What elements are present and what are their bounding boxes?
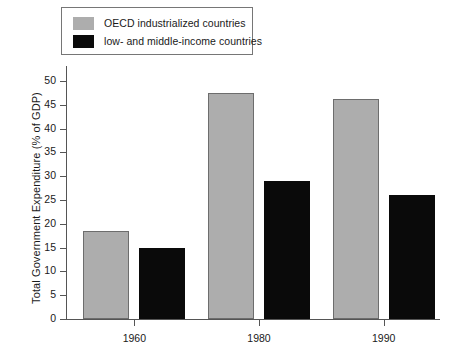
y-axis-line [66,66,67,320]
bar [264,181,310,319]
y-axis-tick: 5 [60,295,66,296]
y-axis-tick-label: 30 [44,169,56,182]
y-axis-tick-label: 45 [44,98,56,111]
y-axis-tick: 0 [60,319,66,320]
bar [139,248,185,319]
y-axis-title: Total Government Expenditure (% of GDP) [30,78,42,318]
y-axis-tick: 20 [60,224,66,225]
y-axis-tick-label: 25 [44,193,56,206]
x-axis-tick [134,320,135,326]
y-axis-tick-label: 5 [50,288,56,301]
chart-legend: OECD industrialized countries low- and m… [61,7,253,55]
x-axis-tick [259,320,260,326]
y-axis-tick-label: 50 [44,74,56,87]
legend-label-oecd: OECD industrialized countries [104,17,246,30]
y-axis-tick-label: 40 [44,122,56,135]
bar [333,99,379,319]
plot-area: 05101520253035404550 196019801990 [66,66,440,320]
y-axis-tick-label: 0 [50,312,56,325]
legend-swatch-gray-icon [73,17,94,30]
bar [208,93,254,319]
y-axis-tick: 40 [60,129,66,130]
x-axis-tick [384,320,385,326]
bar [389,195,435,319]
x-axis-tick-label: 1960 [123,332,146,345]
y-axis-tick-label: 20 [44,217,56,230]
x-axis-tick-label: 1990 [372,332,395,345]
legend-entry-low-middle-income: low- and middle-income countries [73,35,262,48]
legend-swatch-black-icon [73,35,94,48]
legend-label-low-middle-income: low- and middle-income countries [104,35,262,48]
y-axis-tick: 30 [60,176,66,177]
y-axis-tick-label: 15 [44,241,56,254]
y-axis-tick: 15 [60,248,66,249]
y-axis-tick: 45 [60,105,66,106]
legend-entry-oecd: OECD industrialized countries [73,17,246,30]
y-axis-tick: 25 [60,200,66,201]
x-axis-tick-label: 1980 [247,332,270,345]
y-axis-tick: 50 [60,81,66,82]
y-axis-tick: 35 [60,152,66,153]
y-axis-tick-label: 35 [44,145,56,158]
y-axis-tick: 10 [60,271,66,272]
bar [83,231,129,319]
y-axis-tick-label: 10 [44,264,56,277]
